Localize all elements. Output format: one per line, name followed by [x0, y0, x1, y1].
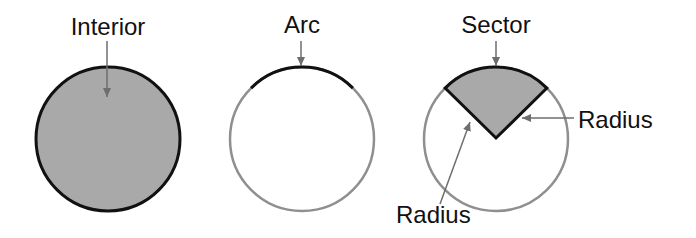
arc-figure: Arc	[230, 11, 374, 211]
arc-highlight	[251, 67, 353, 88]
sector-wedge	[445, 67, 547, 138]
interior-figure: Interior	[36, 13, 180, 211]
radius-left-label: Radius	[396, 201, 471, 228]
sector-figure: Sector Radius Radius	[396, 11, 653, 228]
arc-label: Arc	[284, 11, 320, 38]
sector-label: Sector	[461, 11, 530, 38]
radius-right-label: Radius	[578, 106, 653, 133]
interior-circle	[36, 67, 180, 211]
radius-left-arrow-icon	[440, 122, 470, 204]
interior-label: Interior	[71, 13, 146, 40]
circle-parts-diagram: Interior Arc Sector Radius Radius	[0, 0, 696, 238]
